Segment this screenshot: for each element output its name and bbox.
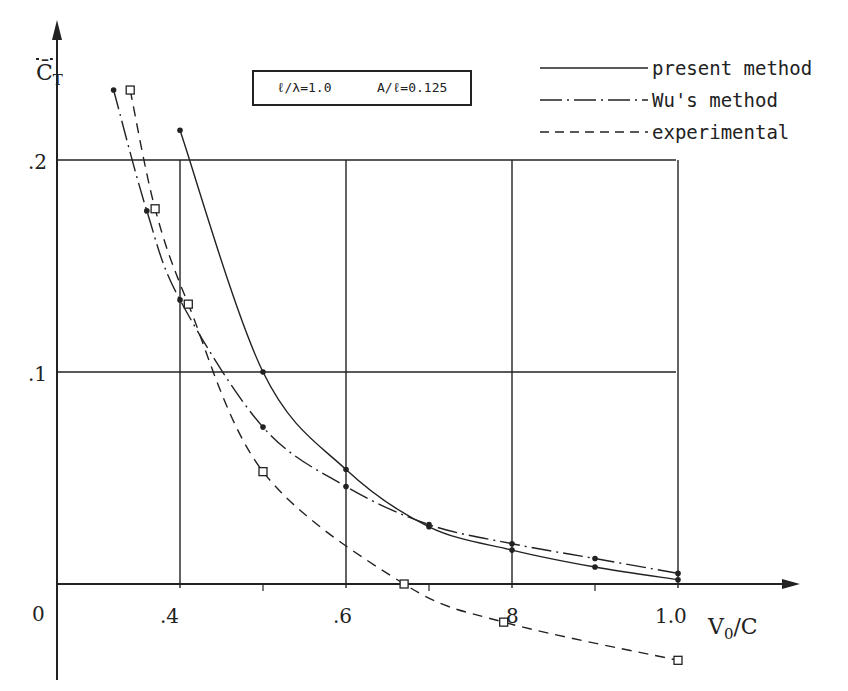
dashed-line-icon	[540, 127, 648, 137]
square-marker-icon	[400, 580, 408, 588]
legend-item-wu: Wu's method	[540, 84, 812, 116]
dot-marker-icon	[260, 424, 266, 430]
legend: present method Wu's method experimental	[540, 52, 812, 148]
param-ratio-2: A/ℓ=0.125	[377, 80, 447, 96]
square-marker-icon	[151, 205, 159, 213]
dot-marker-icon	[111, 87, 117, 93]
x-tick-label: 8	[506, 604, 519, 628]
dot-marker-icon	[144, 208, 150, 214]
dot-marker-icon	[260, 369, 266, 375]
dot-marker-icon	[177, 297, 183, 303]
dash-dot-line-icon	[540, 95, 648, 105]
origin-label: 0	[32, 602, 45, 626]
y-axis-label: C̄T	[36, 60, 63, 89]
parameter-box: ℓ/λ=1.0 A/ℓ=0.125	[252, 70, 472, 106]
x-tick-label: .4	[160, 604, 179, 628]
solid-line-icon	[540, 63, 648, 73]
series-line	[130, 90, 678, 660]
x-axis-label: V0/C	[708, 614, 758, 643]
square-marker-icon	[126, 86, 134, 94]
legend-item-present: present method	[540, 52, 812, 84]
legend-item-experimental: experimental	[540, 116, 812, 148]
dot-marker-icon	[343, 484, 349, 490]
dot-marker-icon	[343, 467, 349, 473]
dot-marker-icon	[177, 128, 183, 134]
x-axis-arrow-icon	[782, 579, 800, 589]
y-tick-label: .2	[28, 150, 47, 174]
dot-marker-icon	[592, 564, 598, 570]
x-tick-label: 1.0	[655, 604, 687, 628]
y-tick-label: .1	[28, 362, 47, 386]
square-marker-icon	[184, 300, 192, 308]
dot-marker-icon	[509, 541, 515, 547]
square-marker-icon	[259, 468, 267, 476]
dot-marker-icon	[426, 522, 432, 528]
dot-marker-icon	[675, 571, 681, 577]
series-line	[114, 90, 678, 573]
square-marker-icon	[674, 656, 682, 664]
dot-marker-icon	[675, 577, 681, 583]
x-tick-label: .6	[333, 604, 352, 628]
y-axis-arrow-icon	[52, 20, 62, 40]
dot-marker-icon	[592, 556, 598, 562]
series-line	[180, 130, 678, 579]
param-ratio-1: ℓ/λ=1.0	[277, 80, 332, 96]
dot-marker-icon	[509, 547, 515, 553]
